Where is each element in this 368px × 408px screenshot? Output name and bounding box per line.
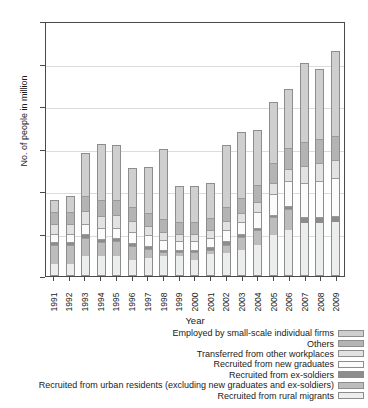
bar-segment[interactable]: [81, 211, 90, 224]
bar-segment[interactable]: [237, 250, 246, 276]
bar-segment[interactable]: [144, 258, 153, 276]
bar-segment[interactable]: [81, 196, 90, 211]
bar-segment[interactable]: [269, 163, 278, 183]
bar-segment[interactable]: [284, 230, 293, 276]
bar-segment[interactable]: [284, 89, 293, 148]
bar-segment[interactable]: [269, 235, 278, 276]
bar-segment[interactable]: [269, 217, 278, 235]
bar-segment[interactable]: [175, 241, 184, 250]
bar-segment[interactable]: [253, 185, 262, 202]
bar-segment[interactable]: [284, 181, 293, 207]
bar-segment[interactable]: [284, 169, 293, 181]
bar-segment[interactable]: [190, 241, 199, 250]
legend-item[interactable]: Recruited from ex-soldiers: [4, 370, 364, 380]
bar-segment[interactable]: [284, 148, 293, 169]
bar-segment[interactable]: [66, 212, 75, 224]
bar-segment[interactable]: [253, 130, 262, 185]
bar-segment[interactable]: [112, 200, 121, 215]
bar-segment[interactable]: [144, 226, 153, 235]
bar-segment[interactable]: [269, 194, 278, 214]
bar-column[interactable]: [331, 23, 340, 276]
bar-column[interactable]: [128, 23, 137, 276]
bar-segment[interactable]: [159, 256, 168, 276]
bar-segment[interactable]: [222, 221, 231, 230]
bar-column[interactable]: [97, 23, 106, 276]
bar-column[interactable]: [315, 23, 324, 276]
bar-segment[interactable]: [159, 219, 168, 232]
bar-segment[interactable]: [128, 232, 137, 243]
bar-segment[interactable]: [112, 145, 121, 199]
bar-segment[interactable]: [300, 142, 309, 166]
bar-column[interactable]: [237, 23, 246, 276]
bar-segment[interactable]: [144, 235, 153, 246]
bar-segment[interactable]: [190, 222, 199, 234]
bar-segment[interactable]: [97, 144, 106, 200]
bar-segment[interactable]: [97, 242, 106, 256]
bar-segment[interactable]: [66, 245, 75, 264]
bar-column[interactable]: [284, 23, 293, 276]
bar-segment[interactable]: [300, 217, 309, 224]
bar-segment[interactable]: [128, 207, 137, 221]
bar-segment[interactable]: [269, 183, 278, 195]
bar-segment[interactable]: [144, 213, 153, 226]
bar-segment[interactable]: [206, 183, 215, 218]
bar-column[interactable]: [159, 23, 168, 276]
bar-segment[interactable]: [81, 238, 90, 256]
bar-segment[interactable]: [175, 186, 184, 222]
bar-segment[interactable]: [253, 245, 262, 276]
bar-segment[interactable]: [50, 234, 59, 243]
bar-segment[interactable]: [222, 145, 231, 207]
bar-column[interactable]: [190, 23, 199, 276]
bar-segment[interactable]: [206, 254, 215, 276]
bar-segment[interactable]: [206, 230, 215, 238]
bar-segment[interactable]: [315, 217, 324, 224]
bar-segment[interactable]: [97, 216, 106, 229]
bar-segment[interactable]: [222, 207, 231, 221]
bar-column[interactable]: [269, 23, 278, 276]
legend-item[interactable]: Others: [4, 338, 364, 348]
bar-segment[interactable]: [128, 168, 137, 207]
bar-segment[interactable]: [315, 181, 324, 217]
bar-segment[interactable]: [112, 228, 121, 238]
bar-segment[interactable]: [315, 139, 324, 163]
bar-segment[interactable]: [97, 228, 106, 238]
bar-segment[interactable]: [128, 260, 137, 276]
bar-segment[interactable]: [331, 160, 340, 178]
bar-segment[interactable]: [284, 209, 293, 230]
bar-segment[interactable]: [144, 167, 153, 213]
bar-segment[interactable]: [159, 149, 168, 220]
legend-item[interactable]: Recruited from rural migrants: [4, 390, 364, 400]
bar-segment[interactable]: [300, 223, 309, 276]
bar-segment[interactable]: [253, 212, 262, 227]
bar-segment[interactable]: [331, 222, 340, 276]
bar-segment[interactable]: [159, 232, 168, 241]
bar-segment[interactable]: [237, 222, 246, 234]
legend-item[interactable]: Employed by small-scale individual firms: [4, 328, 364, 338]
bar-segment[interactable]: [237, 237, 246, 250]
bar-segment[interactable]: [190, 260, 199, 276]
bar-segment[interactable]: [190, 252, 199, 260]
bar-segment[interactable]: [66, 196, 75, 212]
bar-segment[interactable]: [50, 200, 59, 213]
bar-segment[interactable]: [237, 198, 246, 213]
bar-segment[interactable]: [66, 224, 75, 233]
bar-segment[interactable]: [66, 264, 75, 276]
bar-segment[interactable]: [112, 241, 121, 256]
bar-column[interactable]: [222, 23, 231, 276]
bar-column[interactable]: [175, 23, 184, 276]
bar-column[interactable]: [66, 23, 75, 276]
bar-segment[interactable]: [175, 256, 184, 276]
bar-segment[interactable]: [50, 245, 59, 264]
bar-segment[interactable]: [50, 264, 59, 276]
bar-segment[interactable]: [331, 178, 340, 215]
bar-segment[interactable]: [112, 215, 121, 228]
bar-segment[interactable]: [331, 216, 340, 223]
bar-column[interactable]: [112, 23, 121, 276]
bar-column[interactable]: [253, 23, 262, 276]
bar-segment[interactable]: [97, 200, 106, 215]
bar-segment[interactable]: [237, 132, 246, 197]
bar-segment[interactable]: [112, 256, 121, 276]
bar-segment[interactable]: [190, 234, 199, 242]
bar-segment[interactable]: [315, 163, 324, 181]
bar-segment[interactable]: [222, 245, 231, 254]
